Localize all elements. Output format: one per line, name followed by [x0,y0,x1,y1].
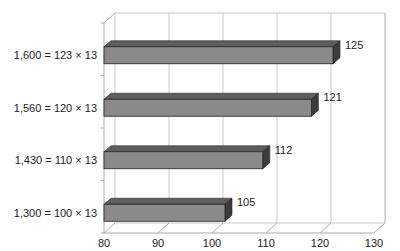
category-label: 1,600 = 123 × 13 [14,49,97,61]
floor-gridline [374,223,385,233]
data-label: 125 [345,39,363,51]
data-label: 121 [323,91,341,103]
x-tick-label: 80 [98,237,110,249]
x-tick-label: 90 [152,237,164,249]
left-wall-edge [104,13,115,23]
floor-gridline [266,223,277,233]
bar-3 [104,47,333,64]
bar-2 [104,99,311,116]
x-tick-label: 120 [311,237,329,249]
x-tick-label: 130 [365,237,383,249]
bar-0 [104,204,225,221]
bar-top [104,198,232,204]
data-label: 105 [237,196,255,208]
category-label: 1,300 = 100 × 13 [14,207,97,219]
x-tick-label: 110 [257,237,275,249]
x-tick-label: 100 [203,237,221,249]
floor-gridline [212,223,223,233]
bar-top [104,41,340,47]
chart-canvas: 80901001101201301051,300 = 100 × 131121,… [0,0,400,251]
floor-gridline [158,223,169,233]
bar-chart: 80901001101201301051,300 = 100 × 131121,… [0,0,400,251]
data-label: 112 [275,144,293,156]
category-label: 1,560 = 120 × 13 [14,102,97,114]
floor-gridline [320,223,331,233]
bar-1 [104,152,263,169]
floor-gridline [104,223,115,233]
bar-top [104,93,318,99]
category-label: 1,430 = 110 × 13 [15,154,97,166]
bar-top [104,146,270,152]
